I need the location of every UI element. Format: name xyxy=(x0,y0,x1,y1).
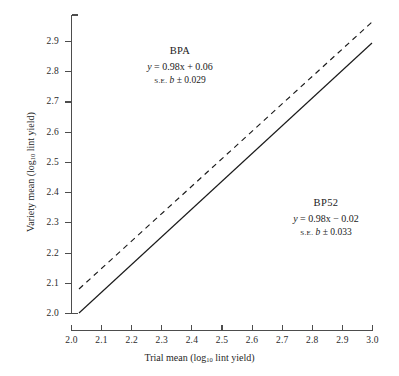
x-tick-label: 2.1 xyxy=(89,335,115,345)
annotation-bpa-se-symbol: b xyxy=(170,75,175,85)
x-tick-label: 2.6 xyxy=(239,335,265,345)
x-axis-title: Trial mean (log10 lint yield) xyxy=(0,352,399,363)
y-tick-label: 2.3 xyxy=(33,217,59,227)
annotation-bpa-se-prefix: S.E. xyxy=(154,77,167,85)
y-tick-label: 2.5 xyxy=(33,157,59,167)
y-axis-title: Variety mean (log10 lint yield) xyxy=(25,112,36,232)
annotation-bpa-se: S.E. b ± 0.029 xyxy=(110,74,250,87)
annotation-bpa-equation: y = 0.98x + 0.06 xyxy=(110,60,250,73)
x-axis-ticks xyxy=(102,325,343,331)
annotation-bp52-equation-lhs: y xyxy=(293,213,297,224)
y-axis-ticks xyxy=(65,42,72,314)
annotation-bpa-equation-rhs: = 0.98x + 0.06 xyxy=(154,61,213,72)
annotation-bp52-label: BP52 xyxy=(256,196,396,210)
y-axis-title-subscript: 10 xyxy=(29,154,36,161)
annotation-bp52-equation-rhs: = 0.98x − 0.02 xyxy=(300,213,359,224)
y-tick-label: 2.0 xyxy=(33,308,59,318)
annotation-bp52-equation: y = 0.98x − 0.02 xyxy=(256,212,396,225)
annotation-bp52-se: S.E. b ± 0.033 xyxy=(256,226,396,239)
annotation-bpa: BPA y = 0.98x + 0.06 S.E. b ± 0.029 xyxy=(110,44,250,87)
annotation-bp52-se-value: ± 0.033 xyxy=(323,227,352,237)
annotation-bpa-equation-lhs: y xyxy=(147,61,151,72)
x-tick-label: 2.0 xyxy=(59,335,85,345)
y-axis-title-pre: Variety mean (log xyxy=(25,160,36,232)
annotation-bp52: BP52 y = 0.98x − 0.02 S.E. b ± 0.033 xyxy=(256,196,396,239)
y-axis-title-container: Variety mean (log10 lint yield) xyxy=(20,82,36,262)
annotation-bp52-se-prefix: S.E. xyxy=(300,229,313,237)
y-tick-label: 2.9 xyxy=(33,36,59,46)
annotation-bp52-se-symbol: b xyxy=(316,227,321,237)
y-axis xyxy=(72,15,79,314)
regression-figure: 2.9 2.8 2.7 2.6 2.5 2.4 2.3 2.2 2.1 2.0 … xyxy=(0,0,399,376)
x-tick-label: 2.2 xyxy=(119,335,145,345)
x-tick-label: 2.3 xyxy=(149,335,175,345)
x-tick-label: 2.5 xyxy=(209,335,235,345)
annotation-bpa-label: BPA xyxy=(110,44,250,58)
y-tick-label: 2.4 xyxy=(33,187,59,197)
x-tick-label: 2.4 xyxy=(179,335,205,345)
y-tick-label: 2.2 xyxy=(33,248,59,258)
x-tick-label: 2.8 xyxy=(299,335,325,345)
x-tick-label: 3.0 xyxy=(360,335,386,345)
x-tick-label: 2.7 xyxy=(269,335,295,345)
y-tick-label: 2.8 xyxy=(33,66,59,76)
y-tick-label: 2.1 xyxy=(33,278,59,288)
x-tick-label: 2.9 xyxy=(329,335,355,345)
y-tick-label: 2.7 xyxy=(33,96,59,106)
y-axis-title-post: lint yield) xyxy=(25,112,36,154)
y-tick-label: 2.6 xyxy=(33,127,59,137)
annotation-bpa-se-value: ± 0.029 xyxy=(177,75,206,85)
x-axis-title-pre: Trial mean (log xyxy=(144,352,206,363)
x-axis-title-post: lint yield) xyxy=(213,352,255,363)
